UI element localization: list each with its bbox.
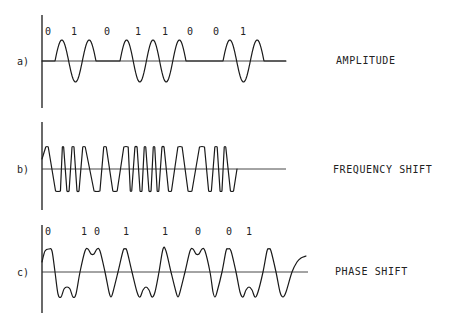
panel-b-label: b) — [17, 164, 29, 175]
panel-a-bit-label: 1 — [240, 26, 246, 37]
modulation-diagram: a) AMPLITUDE 01011001 b) FREQUENCY SHIFT… — [0, 0, 452, 325]
panel-c-bit-label: 1 — [123, 226, 129, 237]
panel-c-title: PHASE SHIFT — [335, 266, 408, 277]
panel-amplitude: a) AMPLITUDE 01011001 — [17, 15, 396, 108]
panel-a-title: AMPLITUDE — [336, 55, 396, 66]
panel-a-bit-label: 0 — [45, 26, 51, 37]
panel-c-bit-label: 1 — [162, 226, 168, 237]
panel-a-bit-label: 0 — [213, 26, 219, 37]
panel-a-bit-label: 0 — [187, 26, 193, 37]
panel-a-bit-labels: 01011001 — [45, 26, 246, 37]
panel-a-bit-label: 1 — [135, 26, 141, 37]
panel-a-bit-label: 1 — [71, 26, 77, 37]
panel-a-bit-label: 1 — [162, 26, 168, 37]
panel-c-bit-label: 0 — [195, 226, 201, 237]
panel-c-label: c) — [17, 267, 29, 278]
panel-c-bit-label: 1 — [81, 226, 87, 237]
panel-frequency-shift: b) FREQUENCY SHIFT — [17, 122, 432, 210]
panel-a-bit-label: 0 — [104, 26, 110, 37]
panel-c-bit-label: 0 — [226, 226, 232, 237]
panel-a-label: a) — [17, 56, 29, 67]
panel-c-bit-labels: 01011001 — [45, 226, 252, 237]
panel-b-title: FREQUENCY SHIFT — [333, 164, 432, 175]
panel-c-bit-label: 1 — [246, 226, 252, 237]
panel-phase-shift: c) PHASE SHIFT 01011001 — [17, 225, 408, 313]
panel-c-bit-label: 0 — [45, 226, 51, 237]
panel-c-bit-label: 0 — [94, 226, 100, 237]
